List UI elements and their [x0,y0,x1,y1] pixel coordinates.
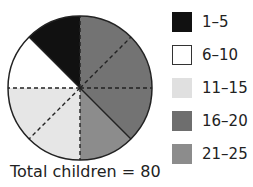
legend-label: 1–5 [202,11,229,33]
total-children-caption: Total children = 80 [10,162,161,181]
legend-swatch [172,78,192,98]
legend-label: 6–10 [202,44,238,66]
pie-chart [0,0,165,162]
legend-swatch [172,111,192,131]
legend-swatch [172,144,192,164]
legend-label: 16–20 [202,110,248,132]
legend-swatch [172,12,192,32]
legend-label: 11–15 [202,77,248,99]
legend-label: 21–25 [202,143,248,165]
legend-swatch [172,45,192,65]
